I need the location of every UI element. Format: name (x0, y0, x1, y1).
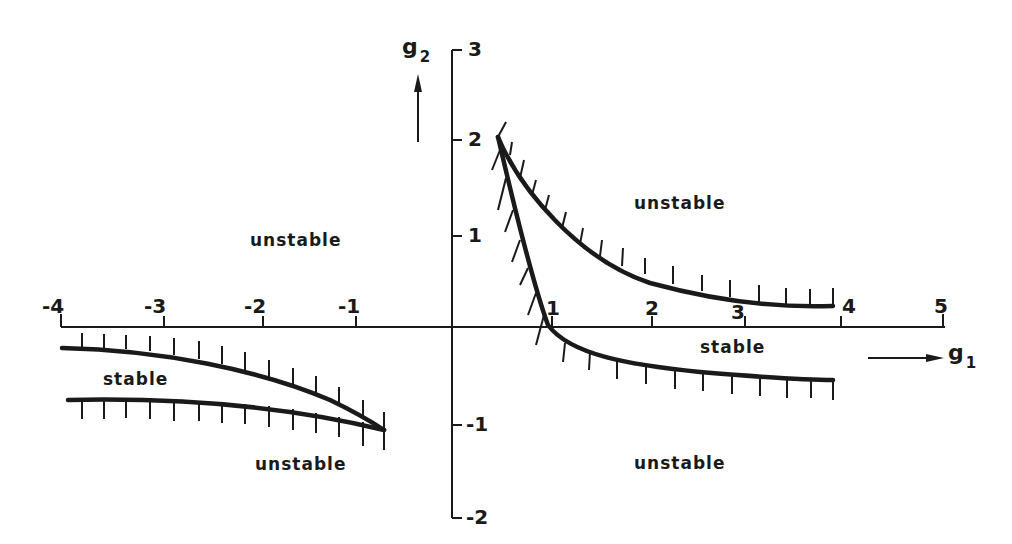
y-ticks (452, 50, 462, 518)
x-tick-label: -1 (338, 294, 360, 318)
x-tick-label: -3 (144, 294, 166, 318)
x-tick-label: 2 (645, 296, 659, 320)
x-axis-arrow (868, 354, 944, 362)
stability-diagram (0, 0, 1012, 544)
x-tick-label: -4 (42, 294, 64, 318)
y-tick-label: 2 (468, 127, 482, 151)
y-axis-label: g2 (402, 34, 430, 59)
x-tick-label: -2 (244, 294, 266, 318)
region-label-right-stable: stable (700, 337, 765, 357)
x-axis-label: g1 (948, 340, 976, 365)
x-ticks (61, 314, 943, 327)
y-axis-arrow (414, 74, 422, 142)
region-label-right-lower-unstable: unstable (634, 453, 725, 473)
x-tick-label: 4 (842, 294, 856, 318)
region-label-left-stable: stable (103, 369, 168, 389)
y-tick-label: 1 (468, 223, 482, 247)
y-tick-label: -1 (466, 412, 488, 436)
x-tick-label: 5 (934, 294, 948, 318)
x-tick-label: 3 (731, 300, 745, 324)
y-tick-label: 3 (468, 37, 482, 61)
right-upper-curve (498, 137, 833, 306)
y-tick-label: -2 (466, 505, 488, 529)
x-tick-label: 1 (546, 296, 560, 320)
region-label-left-lower-unstable: unstable (255, 454, 346, 474)
right-lower-curve (498, 137, 833, 380)
region-label-right-upper-unstable: unstable (634, 193, 725, 213)
axes (61, 50, 945, 518)
boundary-curves (62, 137, 833, 430)
region-label-left-upper-unstable: unstable (250, 230, 341, 250)
